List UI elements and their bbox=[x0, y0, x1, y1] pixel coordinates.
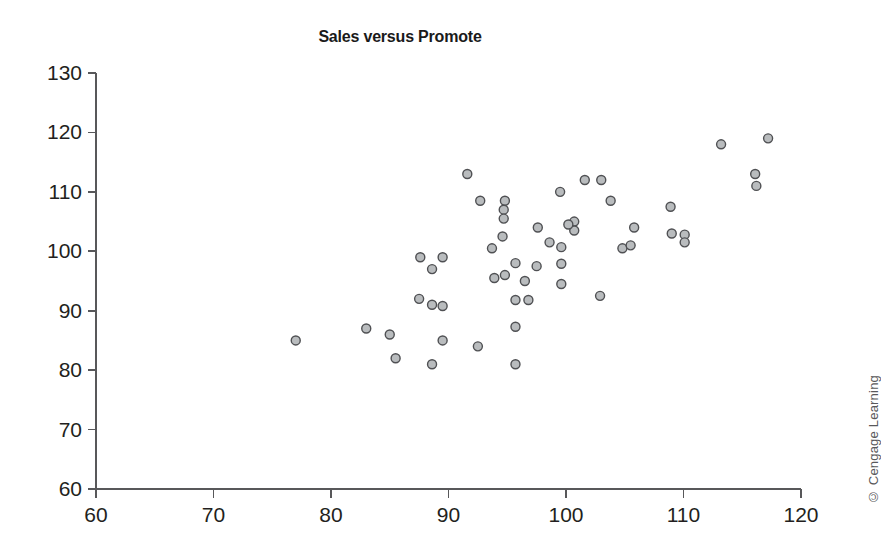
data-point-marker bbox=[500, 271, 509, 280]
y-tick-label: 110 bbox=[49, 180, 82, 203]
data-point-marker bbox=[751, 170, 760, 179]
copyright-credit: © Cengage Learning bbox=[866, 375, 881, 504]
data-point-marker bbox=[428, 360, 437, 369]
data-point-marker bbox=[626, 241, 635, 250]
data-point-marker bbox=[680, 238, 689, 247]
data-point-marker bbox=[764, 134, 773, 143]
data-point-marker bbox=[557, 259, 566, 268]
scatter-plot-figure: Sales versus Promote 6070809010011012013… bbox=[0, 0, 887, 548]
data-point-marker bbox=[487, 244, 496, 253]
x-tick-label: 80 bbox=[319, 503, 342, 526]
data-point-marker bbox=[511, 296, 520, 305]
data-point-marker bbox=[511, 322, 520, 331]
data-point-marker bbox=[490, 274, 499, 283]
data-point-marker bbox=[597, 175, 606, 184]
data-point-marker bbox=[438, 253, 447, 262]
data-point-marker bbox=[291, 336, 300, 345]
data-point-marker bbox=[666, 202, 675, 211]
data-point-marker bbox=[667, 229, 676, 238]
x-tick-label: 90 bbox=[437, 503, 460, 526]
data-point-marker bbox=[500, 196, 509, 205]
data-point-marker bbox=[428, 300, 437, 309]
data-point-marker bbox=[556, 187, 565, 196]
data-point-marker bbox=[463, 170, 472, 179]
data-point-marker bbox=[752, 181, 761, 190]
y-tick-label: 120 bbox=[47, 120, 82, 143]
y-tick-label: 130 bbox=[47, 61, 82, 84]
data-point-marker bbox=[557, 243, 566, 252]
plot-area: 60708090100110120130 60708090100110120 bbox=[0, 0, 887, 548]
data-point-marker bbox=[438, 336, 447, 345]
data-point-marker bbox=[520, 277, 529, 286]
data-point-marker bbox=[717, 140, 726, 149]
y-tick-label: 90 bbox=[59, 299, 82, 322]
x-tick-label: 70 bbox=[202, 503, 225, 526]
data-point-marker bbox=[385, 330, 394, 339]
data-point-marker bbox=[545, 238, 554, 247]
data-point-marker bbox=[511, 360, 520, 369]
x-tick-label: 100 bbox=[548, 503, 583, 526]
x-axis-ticks: 60708090100110120 bbox=[84, 489, 818, 526]
data-point-marker bbox=[511, 259, 520, 268]
data-point-marker bbox=[438, 301, 447, 310]
data-point-marker bbox=[557, 279, 566, 288]
data-point-marker bbox=[533, 223, 542, 232]
data-point-marker bbox=[499, 214, 508, 223]
data-point-marker bbox=[498, 232, 507, 241]
data-points bbox=[291, 134, 772, 369]
y-tick-label: 80 bbox=[59, 358, 82, 381]
x-tick-label: 110 bbox=[667, 503, 700, 526]
data-point-marker bbox=[391, 354, 400, 363]
axes bbox=[96, 73, 801, 489]
data-point-marker bbox=[532, 262, 541, 271]
data-point-marker bbox=[415, 294, 424, 303]
x-tick-label: 60 bbox=[84, 503, 107, 526]
data-point-marker bbox=[524, 296, 533, 305]
data-point-marker bbox=[416, 253, 425, 262]
y-tick-label: 60 bbox=[59, 477, 82, 500]
data-point-marker bbox=[476, 196, 485, 205]
data-point-marker bbox=[362, 324, 371, 333]
data-point-marker bbox=[564, 220, 573, 229]
data-point-marker bbox=[499, 205, 508, 214]
y-tick-label: 70 bbox=[59, 418, 82, 441]
x-tick-label: 120 bbox=[783, 503, 818, 526]
data-point-marker bbox=[580, 175, 589, 184]
data-point-marker bbox=[606, 196, 615, 205]
y-tick-label: 100 bbox=[47, 239, 82, 262]
data-point-marker bbox=[630, 223, 639, 232]
data-point-marker bbox=[428, 265, 437, 274]
y-axis-ticks: 60708090100110120130 bbox=[47, 61, 96, 500]
data-point-marker bbox=[473, 342, 482, 351]
data-point-marker bbox=[596, 291, 605, 300]
